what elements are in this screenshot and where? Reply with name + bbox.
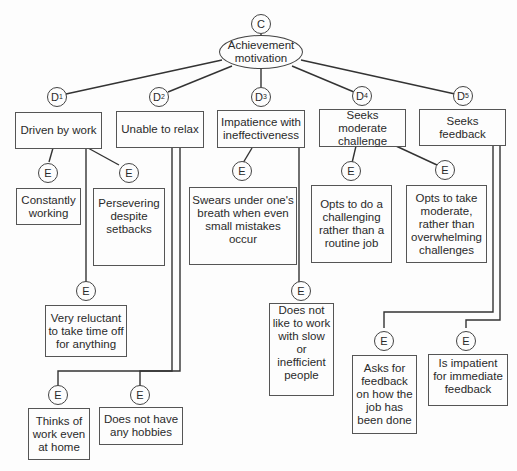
element-label: Is impatient for immediate feedback [431, 357, 505, 396]
element-box-slow-inefficient: Does not like to work with slow or ineff… [269, 303, 334, 396]
element-label: Does not like to work with slow or ineff… [272, 304, 331, 382]
construct-tag: C [257, 18, 265, 30]
element-box-reluctant-time-off: Very reluctant to take time off for anyt… [45, 305, 127, 357]
element-tag-8: E [341, 161, 361, 181]
element-tag-letter: E [297, 285, 304, 297]
element-box-persevering: Persevering despite setbacks [93, 188, 165, 266]
dimension-label: Unable to relax [121, 123, 198, 136]
dimension-label: Seeks feedback [422, 115, 503, 141]
dimension-tag-letter: D [356, 90, 364, 102]
element-box-thinks-of-work: Thinks of work even at home [28, 408, 90, 460]
element-tag-6: E [232, 161, 252, 181]
element-tag-9: E [435, 160, 455, 180]
element-tag-letter: E [347, 165, 354, 177]
construct-ellipse: Achievement motivation [219, 35, 303, 69]
element-tag-3: E [76, 281, 96, 301]
element-tag-letter: E [125, 167, 132, 179]
element-box-constantly-working: Constantly working [16, 188, 81, 225]
element-label: Persevering despite setbacks [96, 197, 162, 236]
element-label: Thinks of work even at home [31, 415, 87, 454]
dimension-tag-3: D3 [251, 87, 271, 107]
dimension-box-3: Impatience with ineffectiveness [217, 110, 305, 148]
element-box-immediate-feedback: Is impatient for immediate feedback [428, 354, 508, 406]
construct-label: Achievement motivation [220, 39, 302, 65]
element-label: Very reluctant to take time off for anyt… [48, 312, 124, 351]
element-tag-letter: E [441, 164, 448, 176]
element-tag-7: E [291, 281, 311, 301]
element-tag-1: E [38, 163, 58, 183]
element-tag-letter: E [136, 389, 143, 401]
dimension-tag-2: D2 [149, 87, 169, 107]
element-tag-4: E [48, 385, 68, 405]
element-tag-2: E [119, 163, 139, 183]
dimension-tag-4: D4 [352, 86, 372, 106]
element-box-challenging-job: Opts to do a challenging rather than a r… [311, 185, 392, 263]
element-tag-letter: E [380, 335, 387, 347]
element-label: Asks for feedback on how the job has bee… [355, 362, 414, 427]
element-tag-5: E [130, 385, 150, 405]
element-box-moderate-challenges: Opts to take moderate, rather than overw… [406, 185, 487, 263]
dimension-label: Impatience with ineffectiveness [220, 116, 302, 142]
dimension-tag-letter: D [255, 91, 263, 103]
element-box-no-hobbies: Does not have any hobbies [99, 407, 183, 445]
element-tag-letter: E [238, 165, 245, 177]
element-label: Opts to take moderate, rather than overw… [409, 192, 484, 257]
dimension-tag-5: D5 [453, 86, 473, 106]
construct-tag-circle: C [251, 14, 271, 34]
dimension-box-4: Seeks moderate challenge [319, 109, 406, 147]
dimension-tag-1: D1 [47, 87, 67, 107]
element-tag-letter: E [462, 335, 469, 347]
dimension-tag-letter: D [153, 91, 161, 103]
element-tag-letter: E [44, 167, 51, 179]
element-label: Constantly working [19, 194, 78, 220]
dimension-tag-letter: D [457, 90, 465, 102]
dimension-label: Driven by work [20, 124, 96, 137]
element-tag-10: E [374, 331, 394, 351]
achievement-motivation-diagram: C Achievement motivation D1 D2 D3 D4 D5 … [0, 0, 517, 471]
dimension-tag-letter: D [51, 91, 59, 103]
dimension-box-5: Seeks feedback [419, 109, 506, 146]
element-tag-11: E [456, 331, 476, 351]
element-label: Swears under one's breath when even smal… [192, 194, 294, 246]
element-tag-letter: E [54, 389, 61, 401]
element-tag-letter: E [82, 285, 89, 297]
element-label: Opts to do a challenging rather than a r… [314, 198, 389, 250]
dimension-box-2: Unable to relax [116, 111, 204, 148]
dimension-label: Seeks moderate challenge [322, 109, 403, 148]
dimension-box-1: Driven by work [15, 112, 102, 149]
element-label: Does not have any hobbies [102, 413, 180, 439]
element-box-swears: Swears under one's breath when even smal… [189, 187, 297, 265]
element-box-asks-feedback: Asks for feedback on how the job has bee… [352, 355, 417, 434]
